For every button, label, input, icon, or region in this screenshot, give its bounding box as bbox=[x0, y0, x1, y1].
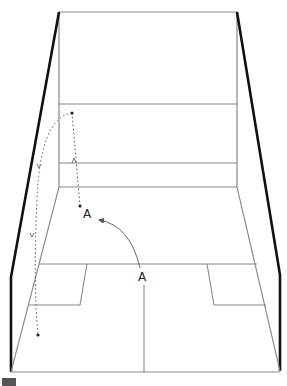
start-point-dot bbox=[78, 204, 81, 207]
down-chevron-icon bbox=[37, 164, 41, 168]
front-wall bbox=[59, 12, 237, 187]
left-side-wall-outline bbox=[11, 12, 59, 372]
right-side-wall-outline bbox=[237, 12, 280, 371]
court-diagram: A A bbox=[0, 0, 287, 386]
side-walls bbox=[11, 12, 280, 372]
point-a-upper-label: A bbox=[83, 207, 92, 221]
ball-trajectory bbox=[35, 113, 80, 335]
right-floor-edge bbox=[237, 187, 280, 371]
up-chevron-icon bbox=[72, 158, 76, 163]
legend-swatch bbox=[2, 378, 16, 386]
down-chevron-icon bbox=[30, 233, 34, 237]
trajectory-down-segment bbox=[35, 113, 72, 335]
right-service-box bbox=[207, 264, 266, 305]
movement-arrow bbox=[99, 220, 140, 268]
trajectory-direction-marks bbox=[30, 158, 76, 237]
left-floor-edge bbox=[11, 187, 59, 372]
end-point-dot bbox=[36, 333, 39, 336]
wall-contact-dot bbox=[70, 111, 73, 114]
point-a-lower-label: A bbox=[138, 270, 147, 284]
